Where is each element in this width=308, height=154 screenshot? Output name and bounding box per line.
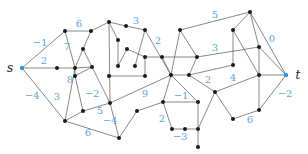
node-n10 — [108, 101, 112, 105]
edge-weight-label: −3 — [173, 131, 188, 142]
node-n18 — [133, 64, 137, 68]
edge-weight-label: 0 — [269, 33, 275, 44]
edge-n28-n40 — [215, 92, 233, 119]
edge-n7-n8 — [75, 76, 83, 111]
terminal-node-s — [20, 66, 24, 70]
node-n41 — [257, 108, 261, 112]
node-n23 — [187, 73, 191, 77]
node-n3 — [81, 47, 85, 51]
node-n36 — [231, 28, 235, 32]
node-n21 — [160, 55, 164, 59]
edge-n26-n33 — [137, 102, 163, 111]
node-n35 — [248, 10, 252, 14]
node-n40 — [231, 117, 235, 121]
node-n11 — [107, 74, 111, 78]
edge-n25-n37 — [197, 47, 259, 57]
edge-n35-n36 — [233, 12, 250, 30]
node-n34 — [117, 136, 121, 140]
node-n20 — [143, 74, 147, 78]
edge-n12-n15 — [109, 22, 118, 40]
edge-n3-n5 — [75, 49, 83, 68]
edge-n24-n25 — [180, 30, 197, 57]
edge-weight-label: 9 — [142, 88, 148, 99]
edge-weight-label: 6 — [247, 114, 253, 125]
edge-weight-label: 2 — [159, 113, 165, 124]
edge-n36-n39 — [233, 30, 259, 75]
terminal-node-t — [284, 73, 288, 77]
node-n7 — [73, 74, 77, 78]
node-n15 — [116, 38, 120, 42]
node-n30 — [183, 127, 187, 131]
node-n37 — [257, 45, 261, 49]
node-n28 — [213, 90, 217, 94]
node-n9 — [63, 119, 67, 123]
edge-n35-n37 — [250, 12, 259, 47]
node-n25 — [195, 55, 199, 59]
edge-layer — [22, 12, 286, 147]
edge-n22-n24 — [171, 30, 180, 75]
edge-n2-n3 — [83, 31, 91, 49]
edge-n28-n31 — [198, 92, 215, 129]
edge-n16-n17 — [118, 49, 127, 66]
edge-n28-n39 — [215, 75, 259, 92]
edge-weight-label: 2 — [155, 35, 161, 46]
edge-weight-label: −1 — [174, 90, 189, 101]
edge-weight-label: 4 — [230, 72, 236, 83]
node-n12 — [107, 20, 111, 24]
edge-n33-n34 — [119, 111, 137, 138]
node-n33 — [135, 109, 139, 113]
edge-weight-label: −4 — [25, 90, 40, 101]
terminal-label-s: s — [7, 61, 13, 75]
edge-weight-label: 3 — [212, 42, 218, 53]
edge-weight-label: 2 — [205, 74, 211, 85]
node-n2 — [89, 29, 93, 33]
node-n39 — [257, 73, 261, 77]
node-n24 — [178, 28, 182, 32]
node-n13 — [124, 24, 128, 28]
edge-n14-n18 — [135, 30, 145, 66]
edge-n21-n22 — [162, 57, 171, 75]
edge-weight-label: 3 — [54, 91, 60, 102]
graph-diagram: −12−46783−256−4932−125324−306−2 st — [0, 0, 308, 154]
edge-weight-label: −4 — [103, 115, 118, 126]
edge-n16-n19 — [127, 49, 145, 57]
edge-n10-n12 — [109, 22, 110, 103]
node-n5 — [73, 66, 77, 70]
node-n8 — [81, 109, 85, 113]
edge-n22-n26 — [163, 75, 171, 102]
edge-n3-n6 — [83, 49, 92, 67]
edge-weight-label: −2 — [85, 88, 100, 99]
edge-n8-n9 — [65, 111, 83, 121]
edge-weight-label: 7 — [64, 41, 70, 52]
edge-weight-label: 8 — [67, 74, 73, 85]
edge-n2-n12 — [91, 22, 109, 31]
edge-weight-label: 2 — [41, 55, 47, 66]
edge-weight-label: −2 — [278, 88, 293, 99]
edge-weight-label: 6 — [76, 18, 82, 29]
edge-weight-label: 3 — [133, 15, 139, 26]
node-n6 — [90, 65, 94, 69]
edge-n23-n25 — [189, 57, 197, 75]
node-n38 — [231, 63, 235, 67]
edge-weight-label: −1 — [33, 37, 48, 48]
node-n22 — [169, 73, 173, 77]
node-n14 — [143, 28, 147, 32]
node-n32 — [196, 145, 200, 149]
node-n1 — [63, 29, 67, 33]
node-n27 — [196, 100, 200, 104]
terminal-label-layer: st — [7, 61, 301, 82]
node-n17 — [116, 64, 120, 68]
node-n31 — [196, 127, 200, 131]
edge-n10-n22 — [110, 75, 171, 103]
edge-n13-n14 — [126, 26, 145, 30]
edge-weight-label: 5 — [212, 9, 218, 20]
edge-n12-n13 — [109, 22, 126, 26]
edge-n6-n7 — [75, 67, 92, 76]
node-n4 — [55, 66, 59, 70]
edge-weight-label: 6 — [85, 127, 91, 138]
node-n29 — [170, 127, 174, 131]
node-n16 — [125, 47, 129, 51]
node-n26 — [161, 100, 165, 104]
node-n19 — [143, 55, 147, 59]
terminal-label-t: t — [296, 68, 301, 82]
